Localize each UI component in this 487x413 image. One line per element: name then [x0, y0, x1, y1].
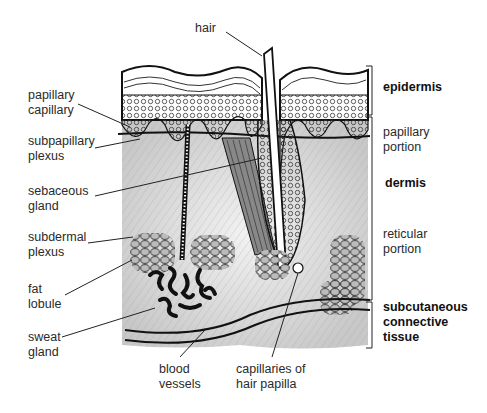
- label-reticular-portion: reticular portion: [383, 227, 427, 257]
- label-capillaries-of-hair-papilla: capillaries of hair papilla: [236, 362, 305, 392]
- label-papillary-portion: papillary portion: [383, 125, 430, 155]
- label-epidermis: epidermis: [383, 80, 442, 95]
- label-sebaceous-gland: sebaceous gland: [28, 184, 88, 214]
- label-subpapillary-plexus: subpapillary plexus: [28, 134, 95, 164]
- label-papillary-capillary: papillary capillary: [28, 88, 75, 118]
- label-fat-lobule: fat lobule: [28, 282, 61, 312]
- label-subcutaneous-connective-tissue: subcutaneous connective tissue: [383, 300, 468, 345]
- label-blood-vessels: blood vessels: [159, 362, 201, 392]
- label-dermis: dermis: [385, 176, 426, 191]
- label-hair: hair: [195, 21, 216, 36]
- label-sweat-gland: sweat gland: [28, 330, 61, 360]
- label-subdermal-plexus: subdermal plexus: [28, 230, 86, 260]
